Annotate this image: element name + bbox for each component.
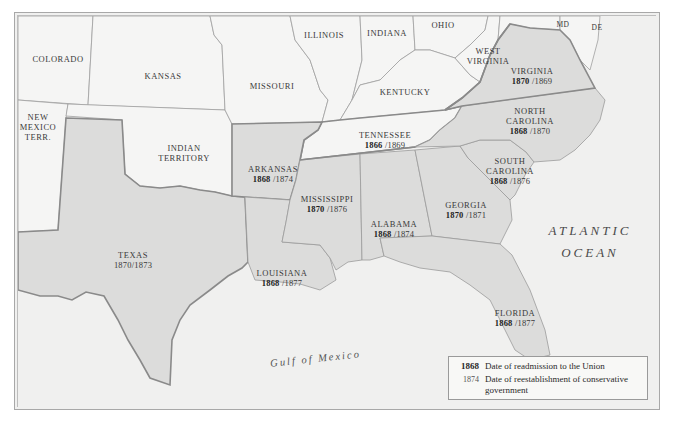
readmission-date: 1868 — [490, 176, 508, 186]
readmission-date: 1870 — [512, 76, 530, 86]
legend-item-conservative: 1874 Date of reestablishment of conserva… — [455, 374, 641, 396]
label-louisiana: LOUISIANA 1868 /1877 — [257, 268, 308, 288]
ocean-name-line1: ATLANTIC — [549, 220, 632, 242]
region-name: INDIANA — [367, 28, 407, 38]
label-colorado: COLORADO — [32, 54, 83, 64]
state-dates: 1870/1873 — [114, 260, 152, 270]
state-name: VIRGINIA — [511, 66, 554, 76]
readmission-date: 1870 — [446, 210, 464, 220]
label-arkansas: ARKANSAS 1868 /1874 — [248, 164, 298, 184]
state-name: MISSISSIPPI — [301, 194, 354, 204]
state-name: TENNESSEE — [359, 130, 411, 140]
label-north-carolina: NORTH CAROLINA 1868 /1870 — [495, 106, 565, 136]
ocean-name-line2: OCEAN — [549, 242, 632, 264]
region-name: OHIO — [431, 20, 454, 30]
state-dates: 1868 /1877 — [257, 278, 308, 288]
label-mississippi: MISSISSIPPI 1870 /1876 — [301, 194, 354, 214]
readmission-date: 1868 — [374, 229, 392, 239]
readmission-date: 1868 — [495, 318, 513, 328]
region-name: COLORADO — [32, 54, 83, 64]
state-name: ARKANSAS — [248, 164, 298, 174]
region-name: KENTUCKY — [380, 87, 431, 97]
readmission-date: 1868 — [262, 278, 280, 288]
conservative-date: /1869 — [385, 140, 405, 150]
region-name: KANSAS — [144, 71, 181, 81]
conservative-date: /1876 — [510, 176, 530, 186]
conservative-date: /1870 — [530, 126, 550, 136]
conservative-date: /1874 — [394, 229, 414, 239]
conservative-date: /1874 — [273, 174, 293, 184]
state-dates: 1868 /1876 — [475, 176, 545, 186]
region-name: DE — [592, 23, 603, 32]
readmission-date: 1868 — [510, 126, 528, 136]
label-west-virginia: WEST VIRGINIA — [462, 46, 514, 66]
state-dates: 1870 /1871 — [445, 210, 487, 220]
label-ohio: OHIO — [431, 20, 454, 30]
label-missouri: MISSOURI — [250, 81, 295, 91]
label-alabama: ALABAMA 1868 /1874 — [371, 219, 417, 239]
state-dates: 1870 /1869 — [511, 76, 554, 86]
label-kentucky: KENTUCKY — [380, 87, 431, 97]
conservative-date: /1876 — [327, 204, 347, 214]
label-kansas: KANSAS — [144, 71, 181, 81]
state-dates: 1868 /1874 — [248, 174, 298, 184]
conservative-date: /1873 — [132, 260, 152, 270]
label-delaware: DE — [592, 23, 603, 33]
label-florida: FLORIDA 1868 /1877 — [495, 308, 536, 328]
label-virginia: VIRGINIA 1870 /1869 — [511, 66, 554, 86]
legend-item-readmission: 1868 Date of readmission to the Union — [455, 361, 641, 372]
state-name: TEXAS — [118, 250, 148, 260]
state-name: NORTH CAROLINA — [506, 106, 554, 126]
region-name: MISSOURI — [250, 81, 295, 91]
legend-label: Date of reestablishment of conservative … — [485, 374, 641, 396]
region-name: WEST VIRGINIA — [467, 46, 510, 66]
state-dates: 1868 /1870 — [495, 126, 565, 136]
state-dates: 1868 /1874 — [371, 229, 417, 239]
legend-label: Date of readmission to the Union — [485, 361, 605, 372]
state-name: LOUISIANA — [257, 268, 308, 278]
label-atlantic-ocean: ATLANTIC OCEAN — [549, 220, 632, 264]
label-indian-territory: INDIAN TERRITORY — [152, 143, 216, 163]
state-name: FLORIDA — [495, 308, 535, 318]
conservative-date: /1869 — [532, 76, 552, 86]
state-name: SOUTH CAROLINA — [486, 156, 534, 176]
state-dates: 1866 /1869 — [359, 140, 411, 150]
label-indiana: INDIANA — [367, 28, 407, 38]
readmission-date: 1870 — [114, 260, 132, 270]
state-dates: 1870 /1876 — [301, 204, 354, 214]
label-georgia: GEORGIA 1870 /1871 — [445, 200, 487, 220]
legend-key: 1874 — [455, 374, 479, 385]
readmission-date: 1868 — [253, 174, 271, 184]
legend-key: 1868 — [455, 361, 479, 372]
label-maryland: MD — [556, 20, 569, 30]
label-texas: TEXAS 1870/1873 — [114, 250, 152, 270]
label-tennessee: TENNESSEE 1866 /1869 — [359, 130, 411, 150]
label-illinois: ILLINOIS — [304, 30, 344, 40]
conservative-date: /1877 — [515, 318, 535, 328]
state-name: GEORGIA — [445, 200, 487, 210]
state-dates: 1868 /1877 — [495, 318, 536, 328]
region-name: INDIAN TERRITORY — [158, 143, 210, 163]
conservative-date: /1877 — [282, 278, 302, 288]
conservative-date: /1871 — [466, 210, 486, 220]
region-name: ILLINOIS — [304, 30, 344, 40]
label-south-carolina: SOUTH CAROLINA 1868 /1876 — [475, 156, 545, 186]
region-name: MD — [556, 20, 569, 29]
map-legend: 1868 Date of readmission to the Union 18… — [448, 356, 648, 400]
region-name: NEW MEXICO TERR. — [20, 112, 57, 142]
label-new-mexico: NEW MEXICO TERR. — [16, 112, 60, 142]
state-name: ALABAMA — [371, 219, 417, 229]
region-kansas — [88, 16, 225, 110]
readmission-date: 1866 — [365, 140, 383, 150]
readmission-date: 1870 — [307, 204, 325, 214]
